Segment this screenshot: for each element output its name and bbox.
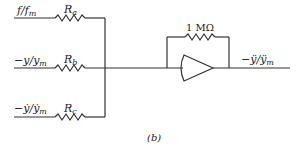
feedback-resistor-label: 1 MΩ [186, 23, 214, 33]
figure-label: (b) [147, 133, 161, 143]
resistor-a-label: Ra [64, 4, 77, 17]
feedback-resistor-icon [185, 34, 215, 40]
op-amp-icon [181, 55, 213, 81]
input-a-label: f/fm [17, 5, 36, 18]
input-b-label: −y/ym [14, 55, 47, 68]
feedback-loop [167, 34, 229, 68]
input-c-label: −ẏ/ẏm [14, 103, 47, 116]
resistor-b-label: Rb [64, 54, 77, 67]
resistor-c-label: Rc [64, 103, 77, 116]
output-label: −ÿ/ÿm [241, 54, 274, 67]
circuit-diagram [0, 0, 306, 150]
